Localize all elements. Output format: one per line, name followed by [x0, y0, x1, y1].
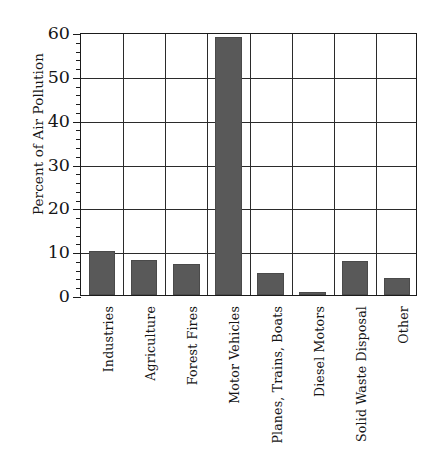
x-axis-label-slot: Industries	[80, 296, 122, 471]
gridline-vertical	[123, 34, 124, 295]
gridline-vertical	[334, 34, 335, 295]
x-axis-label-slot: Solid Waste Disposal	[333, 296, 375, 471]
y-axis-tick	[73, 253, 81, 254]
y-axis-minor-tick	[76, 113, 81, 114]
y-axis-minor-tick	[76, 262, 81, 263]
y-axis-title: Percent of Air Pollution	[30, 24, 46, 244]
y-axis-minor-tick	[76, 52, 81, 53]
gridline-horizontal	[81, 166, 416, 167]
y-axis-minor-tick	[76, 192, 81, 193]
gridline-horizontal	[81, 209, 416, 210]
bar	[89, 251, 116, 295]
y-axis-minor-tick	[76, 139, 81, 140]
y-axis-minor-tick	[76, 60, 81, 61]
gridline-vertical	[207, 34, 208, 295]
y-axis-tick-label: 50	[48, 69, 70, 87]
bar	[215, 37, 242, 295]
gridline-horizontal	[81, 122, 416, 123]
y-axis-minor-tick	[76, 236, 81, 237]
x-axis-labels: IndustriesAgricultureForest FiresMotor V…	[80, 296, 417, 471]
gridline-vertical	[165, 34, 166, 295]
bar	[257, 273, 284, 295]
y-axis-minor-tick	[76, 69, 81, 70]
y-axis-tick	[73, 209, 81, 210]
y-axis-tick	[73, 122, 81, 123]
x-axis-label: Solid Waste Disposal	[354, 306, 369, 442]
y-axis-minor-tick	[76, 183, 81, 184]
x-axis-label-slot: Planes, Trains, Boats	[249, 296, 291, 471]
y-axis-tick-label: 20	[48, 201, 70, 219]
y-axis-tick-label: 10	[48, 244, 70, 262]
y-axis-tick	[73, 34, 81, 35]
x-axis-label: Other	[396, 306, 411, 344]
y-axis-minor-tick	[76, 87, 81, 88]
y-axis-minor-tick	[76, 148, 81, 149]
x-axis-label-slot: Diesel Motors	[291, 296, 333, 471]
x-axis-label: Forest Fires	[185, 306, 200, 385]
x-axis-label-slot: Other	[375, 296, 417, 471]
y-axis-tick-label: 30	[48, 157, 70, 175]
bar	[131, 260, 158, 295]
bar	[173, 264, 200, 295]
bar	[299, 292, 326, 295]
y-axis-minor-tick	[76, 174, 81, 175]
gridline-vertical	[250, 34, 251, 295]
y-axis-minor-tick	[76, 130, 81, 131]
x-axis-label: Planes, Trains, Boats	[270, 306, 285, 444]
y-axis-minor-tick	[76, 288, 81, 289]
y-axis-tick	[73, 78, 81, 79]
x-axis-label: Motor Vehicles	[227, 306, 242, 404]
plot-area: 0102030405060	[80, 33, 417, 296]
y-axis-tick	[73, 166, 81, 167]
x-axis-label: Industries	[101, 306, 116, 372]
y-axis-minor-tick	[76, 271, 81, 272]
x-axis-label-slot: Forest Fires	[164, 296, 206, 471]
gridline-horizontal	[81, 253, 416, 254]
y-axis-minor-tick	[76, 43, 81, 44]
x-axis-label-slot: Motor Vehicles	[206, 296, 248, 471]
gridline-vertical	[376, 34, 377, 295]
y-axis-minor-tick	[76, 244, 81, 245]
y-axis-tick-label: 40	[48, 113, 70, 131]
y-axis-minor-tick	[76, 95, 81, 96]
bar-chart: Percent of Air Pollution 0102030405060 I…	[0, 0, 435, 471]
x-axis-label: Agriculture	[143, 306, 158, 381]
y-axis-minor-tick	[76, 218, 81, 219]
bar	[384, 278, 411, 295]
y-axis-minor-tick	[76, 104, 81, 105]
y-axis-minor-tick	[76, 279, 81, 280]
y-axis-tick-label: 60	[48, 25, 70, 43]
y-axis-tick-label: 0	[59, 288, 70, 306]
y-axis-minor-tick	[76, 201, 81, 202]
y-axis-minor-tick	[76, 157, 81, 158]
gridline-horizontal	[81, 78, 416, 79]
x-axis-label: Diesel Motors	[312, 306, 327, 397]
bar	[342, 261, 369, 295]
y-axis-minor-tick	[76, 227, 81, 228]
x-axis-label-slot: Agriculture	[122, 296, 164, 471]
gridline-vertical	[292, 34, 293, 295]
